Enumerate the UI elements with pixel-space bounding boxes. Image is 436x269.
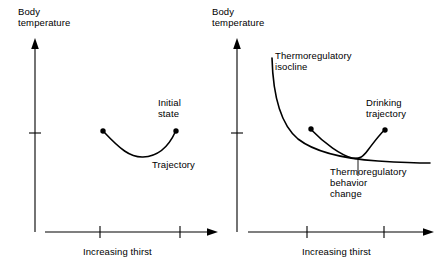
- left-x-axis: [45, 228, 218, 236]
- behavior-change-label-line2: behavior: [330, 177, 407, 188]
- drinking-trajectory-label: Drinking trajectory: [366, 97, 406, 119]
- figure-container: Body temperature Increasing thirst Initi…: [0, 0, 436, 269]
- drinking-trajectory-curve: [311, 130, 385, 159]
- right-y-axis-title: Body temperature: [212, 6, 264, 28]
- drinking-trajectory-label-line1: Drinking: [366, 97, 406, 108]
- panel-right: Body temperature Increasing thirst Therm…: [218, 0, 436, 269]
- right-y-axis-title-line2: temperature: [212, 17, 264, 28]
- behavior-change-label-line3: change: [330, 188, 407, 199]
- trajectory-label: Trajectory: [152, 159, 195, 170]
- left-panel-graphics: [0, 0, 218, 269]
- panel-left: Body temperature Increasing thirst Initi…: [0, 0, 218, 269]
- left-y-axis: [31, 38, 39, 232]
- initial-state-label-line2: state: [158, 108, 181, 119]
- right-panel-graphics: [218, 0, 436, 269]
- right-y-axis-title-line1: Body: [212, 6, 264, 17]
- drinking-end-point-dot: [382, 127, 387, 132]
- left-y-axis-title-line1: Body: [18, 6, 70, 17]
- trajectory-start-point-dot: [308, 126, 313, 131]
- initial-state-point-dot: [173, 128, 178, 133]
- left-y-axis-title: Body temperature: [18, 6, 70, 28]
- right-y-axis: [233, 38, 241, 232]
- thermoregulatory-isocline-curve: [272, 58, 430, 163]
- right-x-axis-title: Increasing thirst: [302, 246, 371, 257]
- initial-state-label-line1: Initial: [158, 97, 181, 108]
- thermoregulatory-isocline-label: Thermoregulatory isocline: [275, 50, 352, 72]
- initial-state-label: Initial state: [158, 97, 181, 119]
- start-point-dot: [100, 128, 105, 133]
- thermoregulatory-isocline-label-line1: Thermoregulatory: [275, 50, 352, 61]
- left-x-axis-title: Increasing thirst: [83, 246, 152, 257]
- behavior-change-label-line1: Thermoregulatory: [330, 166, 407, 177]
- drinking-trajectory-label-line2: trajectory: [366, 108, 406, 119]
- left-y-axis-title-line2: temperature: [18, 17, 70, 28]
- thermoregulatory-isocline-label-line2: isocline: [275, 61, 352, 72]
- thermoregulatory-behavior-change-label: Thermoregulatory behavior change: [330, 166, 407, 199]
- trajectory-curve: [104, 132, 176, 158]
- right-x-axis: [248, 228, 434, 236]
